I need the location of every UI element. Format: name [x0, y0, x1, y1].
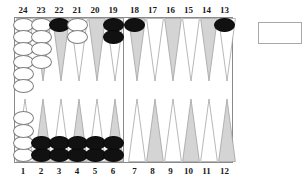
point-18[interactable] — [126, 18, 144, 82]
point-19[interactable] — [104, 18, 122, 82]
point-12[interactable] — [216, 98, 234, 162]
point-7[interactable] — [126, 98, 144, 162]
point-triangle-12 — [216, 98, 238, 162]
checker-black-point-13[interactable] — [214, 18, 235, 32]
checker-black-point-6[interactable] — [103, 148, 124, 162]
checker-black-point-6[interactable] — [103, 136, 124, 150]
checker-white-point-1[interactable] — [13, 111, 34, 125]
point-23[interactable] — [32, 18, 50, 82]
checker-black-point-19[interactable] — [103, 30, 124, 44]
checker-white-point-21[interactable] — [67, 30, 88, 44]
point-16[interactable] — [162, 18, 180, 82]
point-9[interactable] — [162, 98, 180, 162]
point-15[interactable] — [180, 18, 198, 82]
checker-black-point-18[interactable] — [124, 18, 145, 32]
point-24[interactable] — [14, 18, 32, 82]
point-11[interactable] — [198, 98, 216, 162]
point-3[interactable] — [50, 98, 68, 162]
point-5[interactable] — [86, 98, 104, 162]
point-4[interactable] — [68, 98, 86, 162]
checker-white-point-24[interactable] — [13, 79, 34, 93]
point-21[interactable] — [68, 18, 86, 82]
point-8[interactable] — [144, 98, 162, 162]
point-13[interactable] — [216, 18, 234, 82]
point-label-6: 6 — [102, 166, 124, 176]
point-label-12: 12 — [214, 166, 236, 176]
checker-white-point-1[interactable] — [13, 124, 34, 138]
point-14[interactable] — [198, 18, 216, 82]
backgammon-board: 242322212019181716151413 123456789101112 — [0, 0, 308, 184]
point-6[interactable] — [104, 98, 122, 162]
point-17[interactable] — [144, 18, 162, 82]
point-label-13: 13 — [214, 5, 236, 15]
point-label-19: 19 — [102, 5, 124, 15]
point-22[interactable] — [50, 18, 68, 82]
bearoff-tray[interactable] — [258, 22, 302, 44]
point-10[interactable] — [180, 98, 198, 162]
checker-white-point-23[interactable] — [31, 55, 52, 69]
point-20[interactable] — [86, 18, 104, 82]
point-1[interactable] — [14, 98, 32, 162]
point-2[interactable] — [32, 98, 50, 162]
